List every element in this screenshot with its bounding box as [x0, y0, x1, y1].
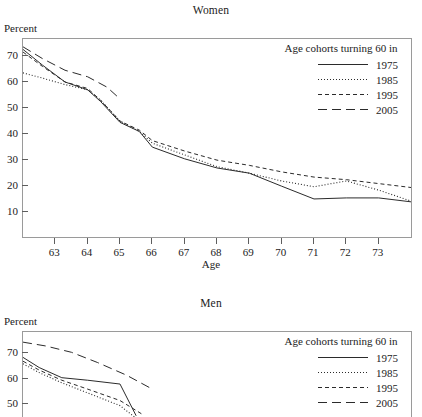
x-tick-mark [378, 238, 379, 244]
y-tick-mark [22, 352, 28, 353]
legend-label: 1985 [376, 74, 410, 86]
y-tick-mark [22, 133, 28, 134]
y-tick-mark [22, 378, 28, 379]
y-tick-mark [22, 211, 28, 212]
legend-swatch-dotted-icon [316, 368, 370, 377]
y-tick-label: 70 [0, 49, 18, 61]
y-tick-mark [22, 403, 28, 404]
x-tick-label: 64 [74, 246, 100, 258]
y-tick-mark [22, 55, 28, 56]
y-tick-label: 30 [0, 153, 18, 165]
x-tick-label: 70 [268, 246, 294, 258]
x-tick-mark [313, 238, 314, 244]
x-tick-mark [345, 238, 346, 244]
x-tick-mark [248, 238, 249, 244]
legend-label: 1985 [376, 367, 410, 379]
x-tick-mark [87, 238, 88, 244]
x-tick-label: 65 [106, 246, 132, 258]
series-line-1975 [23, 357, 136, 415]
x-tick-mark [119, 238, 120, 244]
x-tick-mark [54, 238, 55, 244]
series-line-1995 [23, 361, 143, 414]
legend-label: 1995 [376, 89, 410, 101]
legend-item-1975[interactable]: 1975 [272, 352, 410, 364]
x-tick-label: 68 [203, 246, 229, 258]
legend-swatch-long-dash-icon [316, 398, 370, 407]
legend-swatch-short-dash-icon [316, 90, 370, 99]
y-tick-mark [22, 159, 28, 160]
legend-item-2005[interactable]: 2005 [272, 397, 410, 409]
y-tick-label: 60 [0, 372, 18, 384]
legend-label: 1975 [376, 352, 410, 364]
legend-title: Age cohorts turning 60 in [284, 335, 397, 347]
legend-swatch-solid-icon [316, 60, 370, 69]
series-line-2005 [23, 47, 120, 99]
x-tick-label: 72 [332, 246, 358, 258]
x-tick-mark [281, 238, 282, 244]
x-tick-label: 69 [235, 246, 261, 258]
y-axis-label-women: Percent [4, 22, 37, 34]
legend-swatch-short-dash-icon [316, 383, 370, 392]
y-tick-mark [22, 107, 28, 108]
legend-men: Age cohorts turning 60 in 19751985199520… [272, 335, 410, 410]
series-line-1985 [23, 364, 139, 417]
x-tick-mark [184, 238, 185, 244]
chart-panel-men: Men Percent 506070 Age cohorts turning 6… [0, 287, 422, 417]
y-tick-label: 50 [0, 101, 18, 113]
y-tick-label: 20 [0, 179, 18, 191]
legend-swatch-dotted-icon [316, 75, 370, 84]
x-tick-mark [216, 238, 217, 244]
legend-label: 2005 [376, 397, 410, 409]
legend-item-1995[interactable]: 1995 [272, 382, 410, 394]
legend-item-1995[interactable]: 1995 [272, 89, 410, 101]
y-tick-label: 50 [0, 397, 18, 409]
x-tick-label: 71 [300, 246, 326, 258]
legend-title: Age cohorts turning 60 in [284, 42, 397, 54]
legend-women: Age cohorts turning 60 in 19751985199520… [272, 42, 410, 117]
x-tick-label: 73 [365, 246, 391, 258]
y-tick-label: 40 [0, 127, 18, 139]
x-tick-mark [151, 238, 152, 244]
chart-panel-women: Women Percent 10203040506070 63646566676… [0, 0, 422, 287]
x-tick-label: 67 [171, 246, 197, 258]
legend-item-1985[interactable]: 1985 [272, 367, 410, 379]
y-tick-label: 10 [0, 205, 18, 217]
legend-label: 1975 [376, 59, 410, 71]
legend-item-1985[interactable]: 1985 [272, 74, 410, 86]
y-tick-label: 70 [0, 346, 18, 358]
legend-swatch-solid-icon [316, 353, 370, 362]
legend-item-1975[interactable]: 1975 [272, 59, 410, 71]
series-line-2005 [23, 342, 152, 389]
y-tick-mark [22, 185, 28, 186]
x-tick-label: 66 [138, 246, 164, 258]
legend-label: 1995 [376, 382, 410, 394]
legend-swatch-long-dash-icon [316, 105, 370, 114]
panel-title-women: Women [0, 4, 422, 16]
y-axis-label-men: Percent [4, 315, 37, 327]
x-tick-label: 63 [41, 246, 67, 258]
y-tick-label: 60 [0, 75, 18, 87]
legend-label: 2005 [376, 104, 410, 116]
y-tick-mark [22, 81, 28, 82]
legend-item-2005[interactable]: 2005 [272, 104, 410, 116]
x-axis-label-women: Age [0, 258, 422, 270]
panel-title-men: Men [0, 297, 422, 309]
